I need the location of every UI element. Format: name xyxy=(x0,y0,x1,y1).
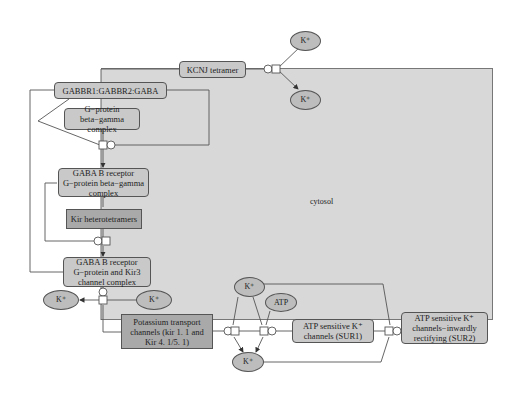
g-protein-beta-gamma-node[interactable]: G−protein beta−gamma complex xyxy=(64,108,140,130)
gabbr1-gabbr2-gaba-node[interactable]: GABBR1:GABBR2:GABA xyxy=(54,82,167,99)
potassium-ion-node[interactable]: K⁺ xyxy=(136,290,172,310)
kcnj-tetramer-node[interactable]: KCNJ tetramer xyxy=(179,61,246,78)
atp-sensitive-sur1-node[interactable]: ATP sensitive K⁺ channels (SUR1) xyxy=(292,319,374,343)
potassium-ion-node[interactable]: K⁺ xyxy=(232,352,264,372)
gabab-kir3-complex-node[interactable]: GABA B receptor G−protein and Kir3 chann… xyxy=(63,257,151,287)
potassium-transport-channels-node[interactable]: Potassium transport channels (kir 1. 1 a… xyxy=(121,314,213,349)
potassium-ion-node[interactable]: K⁺ xyxy=(290,90,321,110)
pathway-diagram: cytosol xyxy=(0,0,520,397)
potassium-ion-node[interactable]: K⁺ xyxy=(290,31,321,51)
gabab-receptor-gprotein-node[interactable]: GABA B receptor G−protein beta−gamma com… xyxy=(58,168,149,197)
atp-node[interactable]: ATP xyxy=(265,293,297,312)
potassium-ion-node[interactable]: K⁺ xyxy=(43,290,79,310)
atp-sensitive-sur2-node[interactable]: ATP sensitive K⁺ channels−inwardly recti… xyxy=(401,312,488,344)
potassium-ion-node[interactable]: K⁺ xyxy=(234,277,265,297)
kir-heterotetramers-node[interactable]: Kir heterotetramers xyxy=(66,209,142,229)
